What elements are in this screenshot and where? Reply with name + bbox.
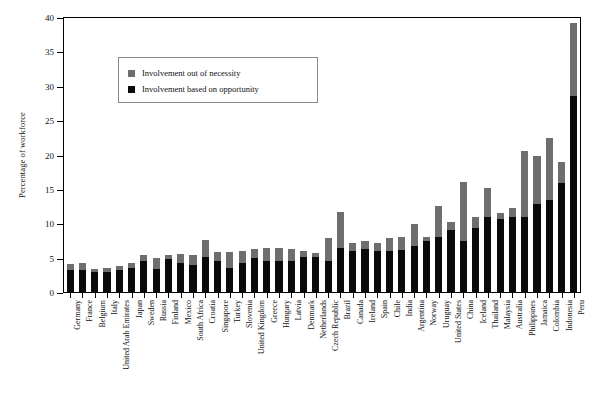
x-axis-tick-mark bbox=[562, 293, 563, 298]
bar-segment-opportunity bbox=[484, 217, 491, 293]
bar-stack bbox=[325, 18, 332, 293]
bar-segment-necessity bbox=[386, 238, 393, 251]
x-axis-tick-mark bbox=[82, 293, 83, 298]
bar-stack bbox=[337, 18, 344, 293]
bar-segment-opportunity bbox=[472, 228, 479, 293]
x-axis-tick-mark bbox=[377, 293, 378, 298]
bar-stack bbox=[361, 18, 368, 293]
bar-segment-opportunity bbox=[533, 204, 540, 293]
bar-segment-opportunity bbox=[411, 246, 418, 293]
x-axis-tick-label: Iceland bbox=[479, 300, 488, 324]
bar-stack bbox=[67, 18, 74, 293]
x-axis-tick-mark bbox=[132, 293, 133, 298]
bar-segment-necessity bbox=[361, 241, 368, 249]
x-axis-tick-label: South Africa bbox=[196, 300, 205, 341]
bar-segment-opportunity bbox=[447, 230, 454, 293]
bar-segment-opportunity bbox=[570, 96, 577, 293]
x-axis-tick-label: Japan bbox=[135, 300, 144, 318]
x-axis-tick-mark bbox=[439, 293, 440, 298]
x-axis-tick-label: Belgium bbox=[98, 300, 107, 328]
x-axis-tick-label: Czech Republic bbox=[331, 300, 340, 351]
x-axis-tick-mark bbox=[230, 293, 231, 298]
x-axis-tick-mark bbox=[181, 293, 182, 298]
x-axis-tick-label: Hungary bbox=[282, 300, 291, 328]
x-axis-tick-label: Finland bbox=[171, 300, 180, 324]
x-axis-tick-mark bbox=[451, 293, 452, 298]
x-axis-tick-mark bbox=[156, 293, 157, 298]
x-axis-tick-mark bbox=[340, 293, 341, 298]
x-axis-tick-label: Singapore bbox=[221, 300, 230, 332]
legend-swatch-black-icon bbox=[128, 86, 135, 93]
y-axis-tick-label: 0 bbox=[28, 288, 54, 298]
x-axis-tick-label: Argentina bbox=[417, 300, 426, 332]
x-axis-tick-mark bbox=[70, 293, 71, 298]
bar-segment-opportunity bbox=[239, 263, 246, 293]
bar-segment-necessity bbox=[533, 156, 540, 204]
x-axis-tick-mark bbox=[254, 293, 255, 298]
bar-segment-opportunity bbox=[349, 251, 356, 293]
x-axis-tick-mark bbox=[488, 293, 489, 298]
bar-segment-opportunity bbox=[337, 248, 344, 293]
x-axis-tick-mark bbox=[291, 293, 292, 298]
bar-segment-necessity bbox=[214, 252, 221, 262]
bar-segment-necessity bbox=[325, 238, 332, 261]
y-axis-tick-label: 40 bbox=[28, 13, 54, 23]
x-axis-tick-mark bbox=[500, 293, 501, 298]
bar-segment-necessity bbox=[177, 254, 184, 263]
x-axis-tick-label: Mexico bbox=[184, 300, 193, 324]
x-axis-tick-mark bbox=[218, 293, 219, 298]
chart-container: Percentage of workforce 0510152025303540… bbox=[0, 0, 589, 403]
x-axis-tick-label: Italy bbox=[110, 300, 119, 315]
bar-segment-necessity bbox=[460, 182, 467, 241]
x-axis-tick-label: France bbox=[85, 300, 94, 322]
bar-segment-necessity bbox=[202, 240, 209, 257]
bar-stack bbox=[91, 18, 98, 293]
bar-segment-opportunity bbox=[214, 261, 221, 293]
bar-segment-opportunity bbox=[91, 272, 98, 293]
x-axis-tick-label: Russia bbox=[159, 300, 168, 321]
bar-segment-opportunity bbox=[423, 241, 430, 293]
bar-stack bbox=[533, 18, 540, 293]
bar-stack bbox=[558, 18, 565, 293]
x-axis-tick-mark bbox=[353, 293, 354, 298]
x-axis-tick-mark bbox=[365, 293, 366, 298]
x-axis-tick-label: United Kingdom bbox=[257, 300, 266, 354]
bar-segment-necessity bbox=[189, 255, 196, 265]
x-axis-tick-mark bbox=[537, 293, 538, 298]
x-axis-tick-mark bbox=[316, 293, 317, 298]
x-axis-tick-mark bbox=[304, 293, 305, 298]
bar-segment-opportunity bbox=[361, 249, 368, 293]
legend-label-necessity: Involvement out of necessity bbox=[142, 68, 240, 78]
bar-segment-necessity bbox=[521, 151, 528, 217]
bar-segment-opportunity bbox=[140, 261, 147, 293]
x-axis-tick-label: India bbox=[405, 300, 414, 316]
bar-stack bbox=[497, 18, 504, 293]
bar-segment-necessity bbox=[558, 162, 565, 183]
x-axis-tick-mark bbox=[463, 293, 464, 298]
bar-segment-opportunity bbox=[300, 257, 307, 293]
x-axis-tick-label: China bbox=[466, 300, 475, 319]
x-axis-tick-label: Greece bbox=[270, 300, 279, 323]
y-axis-title: Percentage of workforce bbox=[17, 75, 27, 235]
bar-segment-opportunity bbox=[165, 259, 172, 293]
bar-stack bbox=[398, 18, 405, 293]
bar-stack bbox=[374, 18, 381, 293]
x-axis-tick-mark bbox=[390, 293, 391, 298]
x-axis-tick-label: United Arab Emirates bbox=[122, 300, 131, 370]
x-axis-tick-label: Ireland bbox=[368, 300, 377, 323]
bar-stack bbox=[103, 18, 110, 293]
bar-segment-opportunity bbox=[67, 270, 74, 293]
x-axis-tick-label: Sweden bbox=[147, 300, 156, 325]
bar-stack bbox=[423, 18, 430, 293]
bar-segment-opportunity bbox=[386, 251, 393, 293]
chart-legend: Involvement out of necessity Involvement… bbox=[118, 57, 318, 103]
bar-stack bbox=[521, 18, 528, 293]
x-axis-tick-mark bbox=[476, 293, 477, 298]
y-axis-tick-label: 35 bbox=[28, 47, 54, 57]
bar-segment-opportunity bbox=[288, 261, 295, 293]
bar-stack bbox=[546, 18, 553, 293]
bar-segment-opportunity bbox=[312, 257, 319, 293]
bar-segment-opportunity bbox=[509, 217, 516, 293]
bar-segment-opportunity bbox=[546, 200, 553, 293]
bar-segment-necessity bbox=[275, 248, 282, 262]
